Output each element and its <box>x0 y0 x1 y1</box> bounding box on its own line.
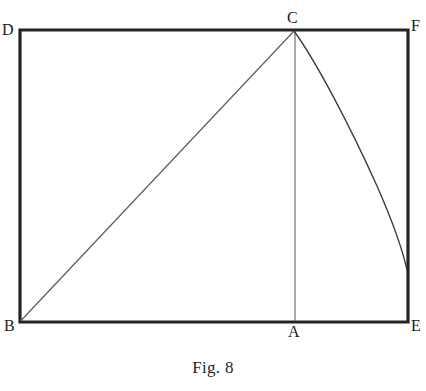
vertex-label-d: D <box>2 22 14 38</box>
rectangle-frame <box>20 30 408 322</box>
figure-container: D C F B A E Fig. 8 <box>0 0 426 391</box>
vertex-label-b: B <box>4 318 15 334</box>
geometric-figure <box>0 0 426 391</box>
figure-caption: Fig. 8 <box>0 358 426 378</box>
vertex-label-e: E <box>411 318 421 334</box>
vertex-label-f: F <box>411 18 420 34</box>
curve-arc-c-to-e <box>294 31 407 270</box>
vertex-label-a: A <box>288 324 300 340</box>
line-segment-bc <box>21 31 294 321</box>
vertex-label-c: C <box>287 10 298 26</box>
